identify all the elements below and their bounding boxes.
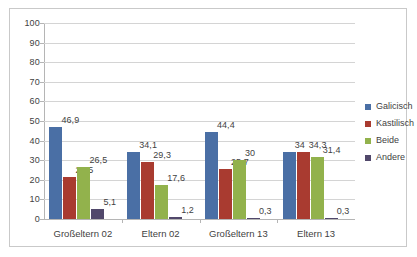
- x-axis-category-label: Eltern 02: [122, 229, 200, 239]
- legend-item[interactable]: Galicisch: [365, 101, 417, 118]
- bar-cluster: 3434,331,40,3: [277, 23, 355, 219]
- bar-value-label: 26,5: [89, 156, 107, 165]
- legend-label: Andere: [376, 152, 405, 163]
- bar-value-label: 34: [295, 141, 305, 150]
- legend-swatch-icon: [365, 121, 371, 127]
- y-tick-label-0: 0: [14, 215, 40, 224]
- legend-item[interactable]: Beide: [365, 135, 417, 152]
- y-tick-mark-30: [40, 160, 44, 161]
- y-axis: 0102030405060708090100: [10, 9, 40, 248]
- y-tick-label-30: 30: [14, 156, 40, 165]
- legend-swatch-icon: [365, 104, 371, 110]
- bar[interactable]: [233, 160, 246, 219]
- bar-value-label: 31,4: [323, 146, 341, 155]
- bar-value-label: 5,1: [103, 198, 116, 207]
- y-tick-mark-80: [40, 62, 44, 63]
- bar-value-label: 44,4: [217, 121, 235, 130]
- y-tick-label-10: 10: [14, 195, 40, 204]
- bar[interactable]: [311, 157, 324, 219]
- bar-cluster: 44,425,7300,3: [200, 23, 278, 219]
- bar[interactable]: [63, 177, 76, 219]
- y-tick-mark-100: [40, 23, 44, 24]
- y-tick-label-70: 70: [14, 78, 40, 87]
- bar-value-label: 29,3: [153, 151, 171, 160]
- y-tick-mark-90: [40, 43, 44, 44]
- legend-item[interactable]: Kastilisch: [365, 118, 417, 135]
- bar[interactable]: [77, 167, 90, 219]
- bar-value-label: 46,9: [61, 116, 79, 125]
- y-tick-label-60: 60: [14, 97, 40, 106]
- legend-label: Beide: [376, 135, 399, 146]
- y-tick-label-20: 20: [14, 176, 40, 185]
- bar-cluster: 34,129,317,61,2: [122, 23, 200, 219]
- bar[interactable]: [283, 152, 296, 219]
- bar-group: 34,129,317,61,2: [122, 23, 200, 219]
- bar[interactable]: [247, 218, 260, 219]
- bar[interactable]: [49, 127, 62, 219]
- bar[interactable]: [219, 169, 232, 219]
- y-tick-mark-60: [40, 101, 44, 102]
- bar[interactable]: [169, 217, 182, 219]
- x-axis-category-label: Großeltern 13: [200, 229, 278, 239]
- bar-value-label: 0,3: [337, 207, 350, 216]
- y-tick-mark-50: [40, 121, 44, 122]
- bar-cluster: 46,921,526,55,1: [44, 23, 122, 219]
- legend-label: Kastilisch: [376, 118, 414, 129]
- legend-swatch-icon: [365, 138, 371, 144]
- y-tick-label-80: 80: [14, 58, 40, 67]
- x-axis-category-label: Eltern 13: [277, 229, 355, 239]
- plot-area: 46,921,526,55,134,129,317,61,244,425,730…: [44, 23, 355, 219]
- category-tick: [122, 219, 123, 223]
- y-tick-label-90: 90: [14, 39, 40, 48]
- x-axis-category-label: Großeltern 02: [44, 229, 122, 239]
- chart-container: 0102030405060708090100 46,921,526,55,134…: [9, 8, 407, 247]
- bar-group: 46,921,526,55,1: [44, 23, 122, 219]
- bar-value-label: 17,6: [167, 174, 185, 183]
- y-tick-mark-10: [40, 199, 44, 200]
- bar[interactable]: [141, 162, 154, 219]
- chart-legend: GalicischKastilischBeideAndere: [365, 101, 417, 169]
- bar-value-label: 1,2: [181, 206, 194, 215]
- y-tick-label-40: 40: [14, 137, 40, 146]
- bar[interactable]: [297, 152, 310, 219]
- y-tick-mark-70: [40, 82, 44, 83]
- y-tick-mark-40: [40, 141, 44, 142]
- category-tick: [200, 219, 201, 223]
- bar[interactable]: [91, 209, 104, 219]
- y-tick-mark-0: [40, 219, 44, 220]
- y-tick-label-50: 50: [14, 117, 40, 126]
- bar-group: 3434,331,40,3: [277, 23, 355, 219]
- legend-label: Galicisch: [376, 101, 413, 112]
- bar[interactable]: [155, 185, 168, 219]
- y-tick-mark-20: [40, 180, 44, 181]
- legend-swatch-icon: [365, 155, 371, 161]
- bar[interactable]: [325, 218, 338, 219]
- bar[interactable]: [127, 152, 140, 219]
- bar-value-label: 30: [245, 149, 255, 158]
- category-tick: [277, 219, 278, 223]
- bar[interactable]: [205, 132, 218, 219]
- bar-value-label: 34,1: [139, 141, 157, 150]
- y-tick-label-100: 100: [14, 19, 40, 28]
- bar-group: 44,425,7300,3: [200, 23, 278, 219]
- bar-value-label: 0,3: [259, 207, 272, 216]
- legend-item[interactable]: Andere: [365, 152, 417, 169]
